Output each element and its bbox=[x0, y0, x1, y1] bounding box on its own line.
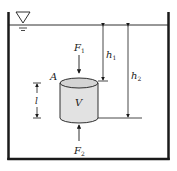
buoyancy-diagram: F1 A V l F2 h1 h2 bbox=[0, 0, 177, 171]
force-bottom-label: F2 bbox=[73, 145, 85, 157]
length-label: l bbox=[35, 96, 38, 106]
depth-top-label: h1 bbox=[106, 49, 116, 61]
inverted-triangle-icon bbox=[16, 12, 30, 31]
force-top-label: F1 bbox=[73, 42, 85, 54]
depth-bottom-label: h2 bbox=[131, 70, 141, 82]
area-label: A bbox=[49, 71, 57, 82]
